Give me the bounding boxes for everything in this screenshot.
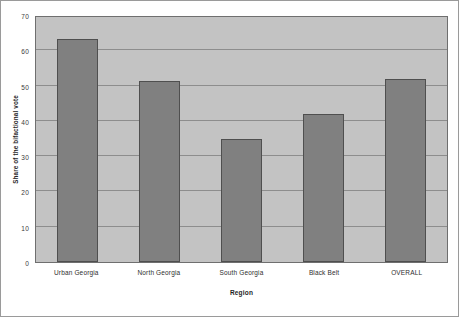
bar-slot	[200, 17, 282, 262]
x-axis-tick-label: Urban Georgia	[35, 269, 118, 276]
bar[interactable]	[303, 114, 344, 262]
x-axis-tick-labels: Urban GeorgiaNorth GeorgiaSouth GeorgiaB…	[35, 269, 448, 276]
x-axis-tick-label: South Georgia	[200, 269, 283, 276]
y-axis-tick-label: 60	[21, 48, 29, 55]
bar-slot	[118, 17, 200, 262]
bar[interactable]	[57, 39, 98, 262]
y-axis-tick-label: 30	[21, 154, 29, 161]
x-axis-title: Region	[35, 289, 448, 296]
y-axis-tick-label: 40	[21, 118, 29, 125]
x-axis-tick-label: North Georgia	[118, 269, 201, 276]
plot-area	[35, 16, 448, 263]
bar-chart-figure: 010203040506070 Share of the bifactional…	[0, 0, 459, 317]
bar[interactable]	[385, 79, 426, 262]
bars-layer	[36, 17, 447, 262]
bar-slot	[36, 17, 118, 262]
bar[interactable]	[139, 81, 180, 262]
y-axis-tick-label: 10	[21, 224, 29, 231]
y-axis-tick-label: 50	[21, 83, 29, 90]
x-axis-tick-label: Black Belt	[283, 269, 366, 276]
y-axis-tick-label: 70	[21, 13, 29, 20]
bar-slot	[283, 17, 365, 262]
y-axis-tick-label: 0	[25, 260, 29, 267]
x-axis-tick-label: OVERALL	[365, 269, 448, 276]
bar-slot	[365, 17, 447, 262]
y-axis-tick-label: 20	[21, 189, 29, 196]
y-axis-title: Share of the bifactional vote	[12, 65, 19, 215]
bar[interactable]	[221, 139, 262, 263]
